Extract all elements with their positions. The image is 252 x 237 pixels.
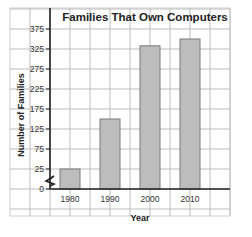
chart-title: Families That Own Computers <box>62 11 228 23</box>
y-tick-label: 375 <box>30 24 44 34</box>
y-axis-title: Number of Families <box>16 73 26 157</box>
x-tick-label: 2000 <box>141 194 160 204</box>
x-tick-label: 2010 <box>181 194 200 204</box>
x-axis-title: Year <box>130 213 150 223</box>
bar-1980 <box>60 169 80 189</box>
y-tick-label: 25 <box>35 164 45 174</box>
bar-chart: 02575125175225275325375 1980199020002010… <box>0 0 252 237</box>
bar-1990 <box>100 119 120 189</box>
y-tick-label: 0 <box>39 184 44 194</box>
bar-2010 <box>180 39 200 189</box>
y-tick-label: 75 <box>35 144 45 154</box>
bar-2000 <box>140 46 160 189</box>
y-tick-label: 175 <box>30 104 44 114</box>
y-tick-label: 325 <box>30 44 44 54</box>
x-tick-label: 1990 <box>101 194 120 204</box>
x-tick-label: 1980 <box>61 194 80 204</box>
y-tick-label: 225 <box>30 84 44 94</box>
y-tick-label: 275 <box>30 64 44 74</box>
y-tick-label: 125 <box>30 124 44 134</box>
